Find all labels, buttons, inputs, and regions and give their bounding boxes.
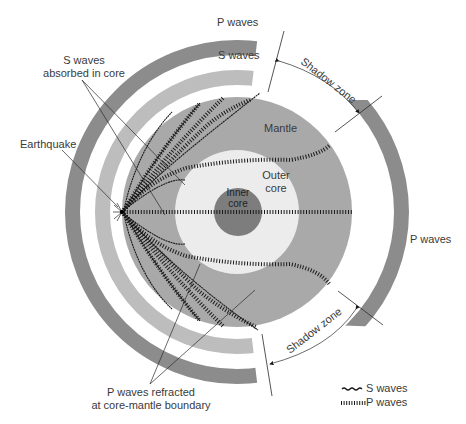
legend-s-waves: S waves (366, 382, 408, 395)
s-wave-legend-icon (342, 388, 362, 390)
shadow-zone-top-label: Shadow zone (299, 55, 359, 106)
s-waves-top-label: S waves (218, 49, 260, 62)
p-waves-refracted-label: P waves refracted at core-mantle boundar… (86, 386, 216, 412)
p-waves-top-label: P waves (217, 16, 258, 29)
seismic-diagram: Shadow zone Shadow zone P waves S waves … (0, 0, 466, 424)
s-waves-absorbed-label: S waves absorbed in core (38, 54, 130, 80)
legend-p-waves: P waves (366, 396, 407, 409)
outer-core-label: Outer core (254, 169, 298, 195)
p-waves-right-label: P waves (410, 233, 451, 246)
mantle-label: Mantle (264, 122, 297, 135)
earthquake-label: Earthquake (20, 138, 76, 151)
legend-icons (341, 388, 366, 403)
inner-core-label: Inner core (216, 187, 260, 209)
shadow-zone-bottom-label: Shadow zone (284, 305, 344, 356)
